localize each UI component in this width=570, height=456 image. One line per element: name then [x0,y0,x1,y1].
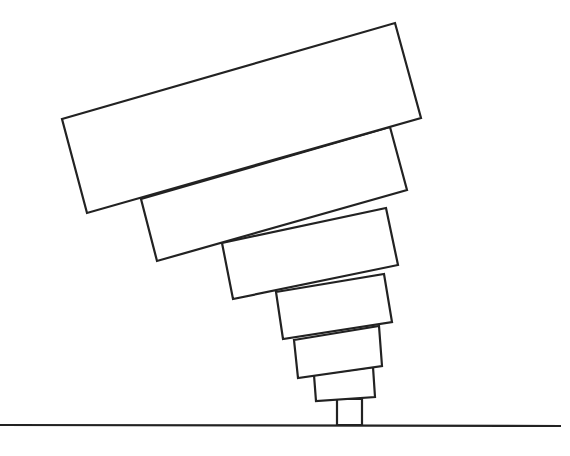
drawing-canvas [0,0,570,456]
ground-line [0,425,561,426]
tower-illustration [0,0,570,456]
support-post [337,399,362,425]
